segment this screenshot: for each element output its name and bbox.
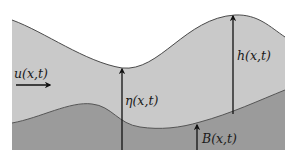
eta-label: η(x,t): [125, 93, 158, 108]
h-label: h(x,t): [237, 48, 271, 63]
velocity-label: u(x,t): [14, 66, 48, 81]
b-label: B(x,t): [201, 131, 237, 146]
shallow-water-diagram: u(x,t) η(x,t) h(x,t) B(x,t): [0, 0, 293, 160]
